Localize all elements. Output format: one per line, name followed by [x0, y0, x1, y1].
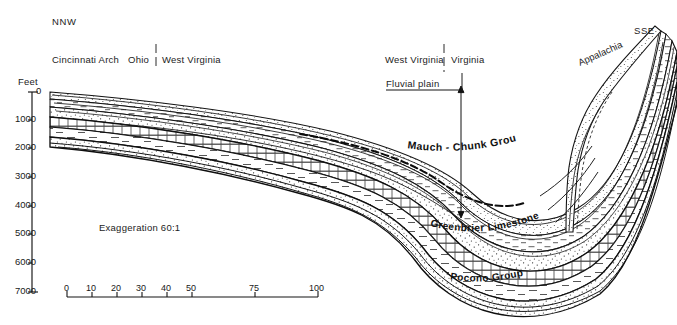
- depth-tick-4000: 4000: [15, 199, 36, 210]
- place-label-virginia: Virginia: [451, 54, 485, 65]
- compass-label-sse: SSE: [634, 25, 655, 36]
- exaggeration-note: Exaggeration 60:1: [99, 222, 180, 233]
- scale-tick-10: 10: [86, 283, 96, 293]
- cross-section-figure: Mauch - Chunk Group Greenbrier Limestone…: [0, 0, 677, 325]
- scale-tick-30: 30: [136, 283, 146, 293]
- scale-tick-75: 75: [249, 283, 259, 293]
- scale-tick-50: 50: [186, 283, 196, 293]
- cross-section-canvas: Mauch - Chunk Group Greenbrier Limestone…: [0, 0, 677, 325]
- depth-tick-2000: 2000: [15, 141, 36, 152]
- compass-label-nnw: NNW: [52, 16, 77, 27]
- place-label-west-virginia-1: West Virginia: [162, 54, 221, 65]
- scale-tick-100: 100: [309, 283, 324, 293]
- depth-tick-0: 0: [36, 85, 41, 96]
- place-label-cincinnati-arch: Cincinnati Arch: [52, 54, 119, 65]
- scale-tick-20: 20: [111, 283, 121, 293]
- scale-tick-0: 0: [64, 283, 69, 293]
- depth-tick-6000: 6000: [15, 256, 36, 267]
- scale-tick-40: 40: [161, 283, 171, 293]
- depth-tick-1000: 1000: [15, 113, 36, 124]
- depth-tick-7000: 7000: [15, 285, 36, 296]
- region-label-appalachia: Appalachia: [576, 38, 624, 67]
- depth-axis-title: Feet: [18, 76, 38, 87]
- place-label-ohio: Ohio: [128, 54, 149, 65]
- place-label-west-virginia-2: West Virginia: [385, 54, 444, 65]
- depth-tick-3000: 3000: [15, 170, 36, 181]
- surface-label-fluvial-plain: Fluvial plain: [386, 78, 439, 89]
- depth-tick-5000: 5000: [15, 227, 36, 238]
